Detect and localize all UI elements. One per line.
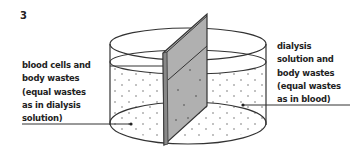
left-compartment-label: blood cells and body wastes (equal waste… xyxy=(22,58,91,124)
label-line: body wastes xyxy=(22,71,91,84)
label-line: solution and xyxy=(277,52,341,65)
label-line: solution) xyxy=(22,111,91,124)
label-line: (equal wastes xyxy=(22,85,91,98)
right-compartment-label: dialysis solution and body wastes (equal… xyxy=(277,39,341,105)
label-line: blood cells and xyxy=(22,58,91,71)
label-line: (equal wastes xyxy=(277,79,341,92)
label-line: dialysis xyxy=(277,39,341,52)
label-line: as in dialysis xyxy=(22,98,91,111)
label-line: as in blood) xyxy=(277,92,341,105)
label-line: body wastes xyxy=(277,66,341,79)
